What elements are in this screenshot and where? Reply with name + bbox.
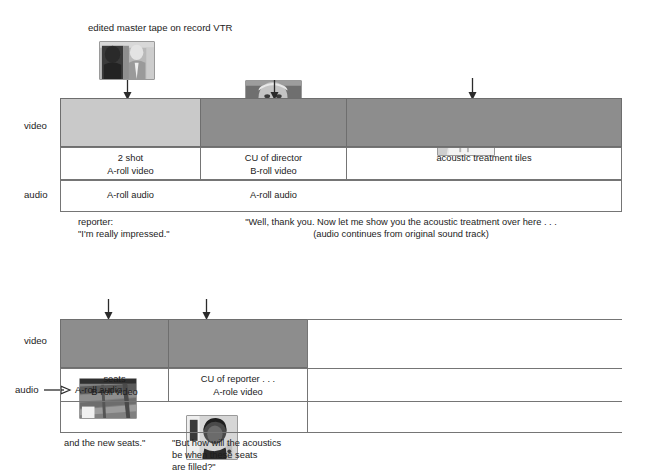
narration-bottom-2-line2: be when these seats (172, 449, 257, 462)
narration-bottom-1-line1: and the new seats." (64, 437, 145, 450)
video-segment-2-line1: CU of director (200, 152, 347, 165)
row-label-video-top: video (24, 120, 47, 132)
video-segment-5-block (168, 319, 308, 368)
narration-top-1-line2: "I'm really impressed." (78, 228, 170, 241)
video-segment-3-block (346, 98, 622, 147)
video-segment-2-line2: B-roll video (200, 165, 347, 178)
narration-bottom-2-line3: are filled?" (172, 461, 216, 474)
timeline-bottom-rule-bottom (60, 432, 622, 433)
video-segment-1-line2: A-roll video (60, 165, 201, 178)
thumbnail-two-shot-reporter-and-director (99, 41, 155, 80)
narration-bottom-2-line1: "But how will the acoustics (172, 437, 281, 450)
narration-top-2-line2: (audio continues from original sound tra… (196, 228, 606, 241)
video-segment-4-block (60, 319, 169, 368)
arrow-down-icon-1 (121, 80, 134, 100)
arrow-down-icon-2 (268, 80, 281, 100)
audio-segment-3-label: A-roll audio (75, 384, 122, 397)
video-segment-5-line1: CU of reporter . . . (168, 373, 308, 386)
row-label-video-bottom: video (24, 335, 47, 347)
arrow-down-icon-5 (200, 299, 213, 320)
timeline-bottom-rule-mid2 (60, 401, 622, 402)
audio-segment-2-label: A-roll audio (200, 189, 347, 202)
video-segment-1-line1: 2 shot (60, 152, 201, 165)
two-shot-image (100, 42, 154, 79)
audio-segment-1-label: A-roll audio (60, 189, 201, 202)
diagram-canvas: edited master tape on record VTR (0, 0, 647, 475)
arrow-down-icon-4 (102, 299, 115, 320)
video-segment-5-line2: A-role video (168, 386, 308, 399)
arrow-down-icon-3 (466, 78, 479, 100)
timeline-bottom-rule-top (307, 319, 622, 320)
video-segment-2-block (200, 98, 347, 147)
video-segment-3-line1: acoustic treatment tiles (346, 152, 622, 165)
narration-top-1-line1: reporter: (78, 216, 113, 229)
timeline-bottom-rule-mid1 (60, 368, 622, 369)
narration-top-2-line1: "Well, thank you. Now let me show you th… (196, 216, 606, 229)
figure-title: edited master tape on record VTR (88, 22, 233, 34)
row-label-audio-bottom: audio (15, 384, 38, 396)
video-segment-1-block (60, 98, 201, 147)
row-label-audio-top: audio (24, 189, 47, 201)
